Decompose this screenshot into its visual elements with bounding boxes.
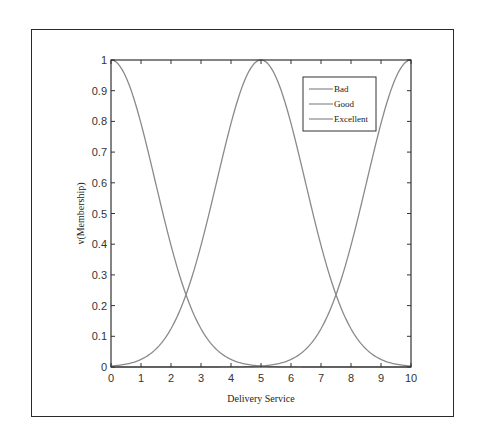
y-axis-label: v(Membership) bbox=[75, 182, 87, 244]
x-tick-label: 1 bbox=[138, 372, 144, 384]
x-tick-label: 4 bbox=[228, 372, 234, 384]
x-tick-label: 6 bbox=[288, 372, 294, 384]
x-tick-label: 10 bbox=[405, 372, 417, 384]
legend-label-good: Good bbox=[334, 99, 354, 109]
x-tick-label: 8 bbox=[348, 372, 354, 384]
y-tick-label: 0.4 bbox=[92, 238, 107, 250]
x-axis-label: Delivery Service bbox=[227, 393, 295, 404]
y-tick-label: 0.3 bbox=[92, 269, 107, 281]
legend-label-bad: Bad bbox=[334, 84, 349, 94]
x-tick-label: 5 bbox=[258, 372, 264, 384]
y-tick-label: 1 bbox=[101, 54, 107, 66]
x-tick-label: 0 bbox=[108, 372, 114, 384]
legend-label-excellent: Excellent bbox=[334, 114, 368, 124]
y-tick-label: 0.7 bbox=[92, 146, 107, 158]
x-tick-label: 7 bbox=[318, 372, 324, 384]
x-tick-label: 3 bbox=[198, 372, 204, 384]
membership-chart: 012345678910 00.10.20.30.40.50.60.70.80.… bbox=[0, 0, 479, 442]
y-tick-label: 0.8 bbox=[92, 115, 107, 127]
y-tick-label: 0.1 bbox=[92, 330, 107, 342]
y-tick-label: 0.9 bbox=[92, 85, 107, 97]
y-tick-label: 0.2 bbox=[92, 300, 107, 312]
x-tick-label: 2 bbox=[168, 372, 174, 384]
y-tick-label: 0 bbox=[101, 361, 107, 373]
x-tick-label: 9 bbox=[378, 372, 384, 384]
legend: BadGoodExcellent bbox=[303, 77, 376, 131]
y-tick-label: 0.6 bbox=[92, 177, 107, 189]
y-tick-label: 0.5 bbox=[92, 208, 107, 220]
